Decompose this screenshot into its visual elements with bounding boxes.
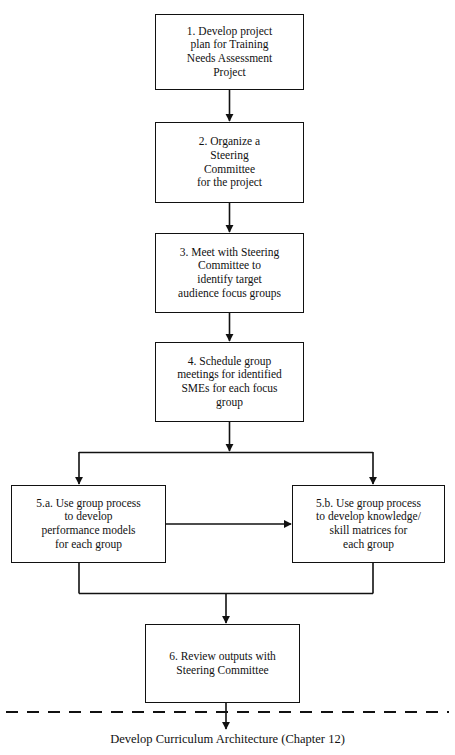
flow-node-step-5a-label: 5.a. Use group process to develop perfor… [18,497,159,551]
flow-node-step-5b-label: 5.b. Use group process to develop knowle… [299,497,438,551]
flow-node-step-2[interactable]: 2. Organize a Steering Committee for the… [155,122,304,203]
flow-node-step-3-label: 3. Meet with Steering Committee to ident… [162,246,297,300]
flow-node-step-1-label: 1. Develop project plan for Training Nee… [162,25,297,79]
flow-node-step-4-label: 4. Schedule group meetings for identifie… [162,355,297,409]
flow-node-step-5a[interactable]: 5.a. Use group process to develop perfor… [11,485,166,563]
flow-node-step-1[interactable]: 1. Develop project plan for Training Nee… [155,14,304,90]
flowchart-page: 1. Develop project plan for Training Nee… [0,0,455,755]
diagram-caption: Develop Curriculum Architecture (Chapter… [0,732,455,747]
flow-node-step-5b[interactable]: 5.b. Use group process to develop knowle… [292,485,445,563]
flow-node-step-6[interactable]: 6. Review outputs with Steering Committe… [145,624,300,703]
flow-node-step-2-label: 2. Organize a Steering Committee for the… [162,135,297,189]
flow-node-step-6-label: 6. Review outputs with Steering Committe… [152,650,293,677]
flow-node-step-4[interactable]: 4. Schedule group meetings for identifie… [155,342,304,422]
flow-node-step-3[interactable]: 3. Meet with Steering Committee to ident… [155,233,304,313]
